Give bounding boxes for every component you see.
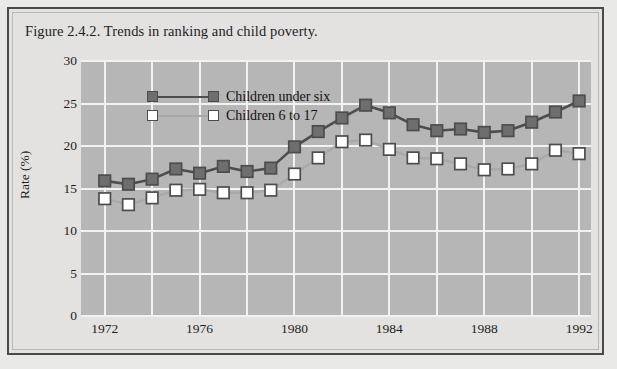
figure-title: Figure 2.4.2. Trends in ranking and chil… bbox=[25, 23, 318, 40]
data-point-marker bbox=[550, 145, 562, 157]
y-axis-tick-label: 5 bbox=[37, 266, 77, 282]
legend-line-6-to-17 bbox=[151, 115, 215, 118]
data-point-marker bbox=[289, 141, 301, 153]
data-point-marker bbox=[526, 116, 538, 128]
data-point-marker bbox=[502, 125, 513, 137]
legend-swatch-children-under-six bbox=[147, 90, 219, 104]
data-point-marker bbox=[241, 166, 253, 178]
data-point-marker bbox=[194, 167, 206, 179]
data-point-marker bbox=[218, 161, 230, 173]
data-point-marker bbox=[455, 123, 467, 135]
data-point-marker bbox=[170, 163, 182, 175]
data-point-marker bbox=[455, 158, 467, 170]
data-point-marker bbox=[194, 184, 206, 196]
data-point-marker bbox=[265, 184, 277, 196]
data-point-marker bbox=[550, 106, 562, 118]
data-point-marker bbox=[431, 125, 443, 137]
x-axis-tick-label: 1980 bbox=[281, 321, 308, 337]
data-point-marker bbox=[289, 168, 301, 180]
data-point-marker bbox=[265, 162, 277, 174]
data-point-marker bbox=[384, 107, 396, 119]
chart-legend: Children under six Children 6 to 17 bbox=[147, 87, 330, 125]
y-axis-tick-label: 25 bbox=[37, 96, 77, 112]
legend-swatch-children-6-to-17 bbox=[147, 109, 219, 123]
data-point-marker bbox=[384, 144, 396, 156]
data-point-marker bbox=[241, 187, 253, 199]
data-point-marker bbox=[360, 99, 372, 111]
data-point-marker bbox=[502, 163, 513, 175]
data-point-marker bbox=[99, 193, 111, 205]
x-axis-tick-label: 1988 bbox=[471, 321, 498, 337]
y-axis-tick-label: 30 bbox=[37, 53, 77, 69]
chart-area: Rate (%) 051015202530 197219761980198419… bbox=[21, 49, 591, 344]
y-axis-tick-label: 20 bbox=[37, 138, 77, 154]
data-point-marker bbox=[336, 136, 348, 148]
legend-marker-right-under-six bbox=[208, 91, 219, 102]
x-axis-tick-label: 1972 bbox=[91, 321, 118, 337]
data-point-marker bbox=[360, 134, 372, 146]
y-axis-tick-label: 10 bbox=[37, 223, 77, 239]
legend-marker-left-6-to-17 bbox=[147, 110, 158, 121]
data-point-marker bbox=[573, 95, 585, 107]
data-point-marker bbox=[312, 126, 324, 138]
data-point-marker bbox=[407, 119, 419, 131]
data-point-marker bbox=[479, 164, 491, 176]
plot-region: Children under six Children 6 to 17 bbox=[81, 61, 591, 316]
figure-frame: Figure 2.4.2. Trends in ranking and chil… bbox=[7, 7, 604, 355]
data-point-marker bbox=[479, 127, 491, 138]
legend-label-children-under-six: Children under six bbox=[226, 89, 330, 105]
data-point-marker bbox=[431, 153, 443, 165]
data-point-marker bbox=[407, 152, 419, 164]
data-point-marker bbox=[146, 173, 158, 185]
x-axis-tick-label: 1984 bbox=[376, 321, 403, 337]
data-point-marker bbox=[123, 179, 135, 191]
data-point-marker bbox=[170, 184, 182, 196]
x-axis-tick-label: 1976 bbox=[186, 321, 213, 337]
data-point-marker bbox=[336, 112, 348, 124]
data-point-marker bbox=[573, 148, 585, 160]
legend-marker-right-6-to-17 bbox=[208, 110, 219, 121]
data-point-marker bbox=[526, 158, 538, 170]
legend-label-children-6-to-17: Children 6 to 17 bbox=[226, 108, 317, 124]
x-axis-tick-label: 1992 bbox=[566, 321, 593, 337]
legend-item-children-6-to-17: Children 6 to 17 bbox=[147, 106, 330, 125]
data-point-marker bbox=[312, 152, 324, 164]
data-point-marker bbox=[99, 175, 111, 187]
data-point-marker bbox=[218, 187, 230, 199]
data-point-marker bbox=[146, 192, 158, 204]
y-axis-label: Rate (%) bbox=[17, 151, 33, 199]
y-axis-tick-label: 0 bbox=[37, 308, 77, 324]
legend-item-children-under-six: Children under six bbox=[147, 87, 330, 106]
legend-marker-left-under-six bbox=[147, 91, 158, 102]
legend-line-under-six bbox=[151, 96, 215, 99]
y-axis-tick-label: 15 bbox=[37, 181, 77, 197]
data-point-marker bbox=[123, 199, 135, 211]
